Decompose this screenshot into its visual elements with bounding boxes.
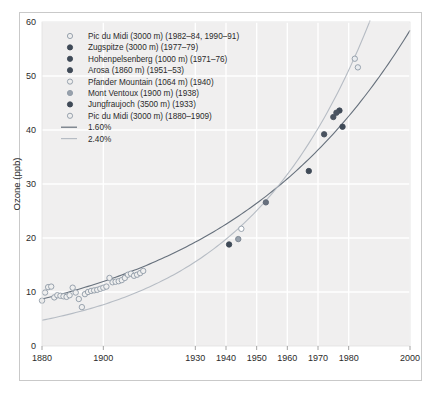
legend-swatch-marker — [67, 79, 72, 84]
data-point — [352, 56, 357, 61]
plot-area: 0102030405060188019001930194019501960197… — [0, 0, 441, 403]
data-point — [236, 236, 241, 241]
x-tick-label: 1980 — [339, 353, 359, 363]
data-point — [70, 285, 75, 290]
y-tick-label: 0 — [31, 341, 36, 351]
y-tick-label: 60 — [26, 17, 36, 27]
data-point — [42, 290, 47, 295]
series-3 — [263, 200, 268, 205]
data-point — [79, 304, 84, 309]
legend-label: Pic du Midi (3000 m) (1982–84, 1990–91) — [88, 32, 239, 41]
legend-swatch-marker — [67, 102, 72, 107]
data-point — [306, 168, 311, 173]
y-tick-label: 20 — [26, 233, 36, 243]
x-tick-label: 1950 — [247, 353, 267, 363]
x-tick-label: 1880 — [32, 353, 52, 363]
y-tick-label: 50 — [26, 71, 36, 81]
data-point — [263, 200, 268, 205]
ozone-trend-figure: 0102030405060188019001930194019501960197… — [0, 0, 441, 403]
x-tick-label: 1940 — [216, 353, 236, 363]
x-tick-label: 2000 — [400, 353, 420, 363]
legend-label: Mont Ventoux (1900 m) (1938) — [88, 89, 199, 98]
data-point — [67, 293, 72, 298]
legend-label: Zugspitze (3000 m) (1977–79) — [88, 43, 198, 52]
x-tick-label: 1930 — [185, 353, 205, 363]
legend-swatch-marker — [67, 33, 72, 38]
data-point — [104, 284, 109, 289]
series-4 — [239, 226, 244, 231]
data-point — [73, 290, 78, 295]
y-tick-label: 40 — [26, 125, 36, 135]
x-tick-label: 1970 — [308, 353, 328, 363]
legend-label: Jungfraujoch (3500 m) (1933) — [88, 100, 196, 109]
ozone-scatter-chart: 0102030405060188019001930194019501960197… — [0, 0, 441, 403]
data-point — [226, 242, 231, 247]
legend-label: Hohenpelsenberg (1000 m) (1971–76) — [88, 55, 228, 64]
y-axis-title: Ozone (ppb) — [11, 158, 22, 211]
x-tick-label: 1900 — [93, 353, 113, 363]
legend-label: Pic du Midi (3000 m) (1880–1909) — [88, 112, 212, 121]
data-point — [49, 284, 54, 289]
legend-swatch-marker — [67, 56, 72, 61]
y-tick-label: 30 — [26, 179, 36, 189]
data-point — [141, 268, 146, 273]
series-5 — [236, 236, 241, 241]
legend-swatch-marker — [67, 45, 72, 50]
data-point — [76, 296, 81, 301]
legend-label: Pfander Mountain (1064 m) (1940) — [88, 78, 214, 87]
legend-swatch-marker — [67, 68, 72, 73]
data-point — [355, 65, 360, 70]
data-point — [334, 110, 339, 115]
legend-label: Arosa (1860 m) (1951–53) — [88, 66, 184, 75]
data-point — [239, 226, 244, 231]
data-point — [340, 124, 345, 129]
legend-swatch-marker — [67, 113, 72, 118]
legend-label: 2.40% — [88, 135, 111, 144]
data-point — [321, 132, 326, 137]
y-tick-label: 10 — [26, 287, 36, 297]
legend-swatch-marker — [67, 90, 72, 95]
x-tick-label: 1960 — [277, 353, 297, 363]
legend-label: 1.60% — [88, 123, 111, 132]
